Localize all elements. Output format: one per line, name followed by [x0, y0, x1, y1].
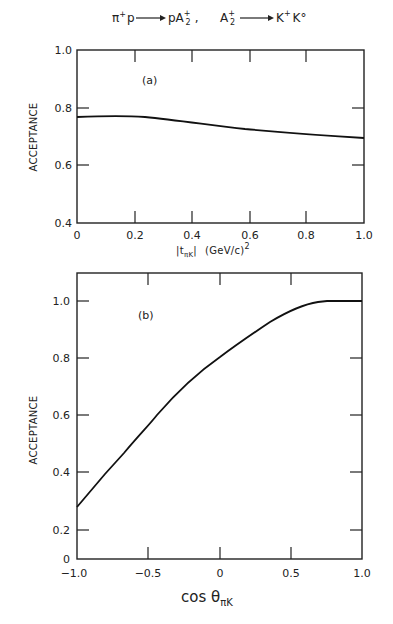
y-tick-label: 0.8 [53, 352, 71, 365]
acceptance-curve-a [77, 116, 364, 138]
title-K0: K° [293, 11, 307, 25]
x-axis-title-units: (GeV/c) [205, 245, 245, 256]
y-tick-label: 0.2 [53, 524, 71, 537]
y-tick-label: 0.6 [53, 409, 71, 422]
x-axis-title-sub: πK [184, 251, 194, 259]
title-p: p [127, 11, 135, 25]
x-tick-label: 0.5 [282, 567, 300, 580]
y-tick-label: 1.0 [53, 295, 71, 308]
y-tick-label: 0.4 [53, 466, 71, 479]
y-tick-label: 0.8 [55, 102, 73, 115]
title-sup: + [228, 9, 235, 18]
x-axis-title-tail: | [193, 245, 197, 257]
panel-a: 0.4 0.6 0.8 1.0 0 0.2 0.4 0.6 0.8 1.0 |t… [28, 44, 373, 259]
figure: π+p pA+2, A+2 K+K° 0.4 [0, 0, 393, 624]
svg-text:K+K°: K+K° [276, 9, 306, 25]
title-sub: 2 [186, 18, 191, 27]
title-sup: + [284, 9, 291, 18]
y-axis-title: ACCEPTANCE [28, 103, 39, 172]
x-axis-title-main: |t [176, 245, 184, 257]
svg-text:pA+2,: pA+2, [168, 9, 198, 27]
x-tick-label: −1.0 [61, 567, 88, 580]
y-tick-label: 1.0 [55, 44, 73, 57]
x-axis-title-sup: 2 [244, 242, 249, 251]
x-axis-title: cos θπK [181, 588, 233, 608]
panel-label: (a) [142, 74, 157, 87]
x-axis-title-main: cos θ [181, 588, 220, 606]
panel-b: 0 0.2 0.4 0.6 0.8 1.0 −1.0 −0.5 0 0.5 1.… [28, 273, 371, 608]
panel-label: (b) [138, 309, 154, 322]
y-tick-label: 0 [63, 553, 70, 566]
x-axis-title: |tπK|(GeV/c)2 [176, 242, 250, 259]
arrowhead-icon [160, 15, 166, 21]
title-pA: pA [168, 11, 185, 25]
y-tick-label: 0.4 [55, 217, 73, 230]
svg-text:A+2: A+2 [220, 9, 235, 27]
title-comma: , [195, 11, 199, 25]
x-tick-label: 1.0 [355, 229, 373, 242]
x-tick-label: 0 [74, 229, 81, 242]
x-tick-label: 1.0 [353, 567, 371, 580]
x-tick-label: −0.5 [135, 567, 162, 580]
title-sup: + [119, 10, 126, 19]
x-tick-label: 0.4 [183, 229, 201, 242]
x-axis-title-sub: πK [220, 597, 233, 608]
x-tick-label: 0.6 [241, 229, 259, 242]
arrowhead-icon [268, 15, 274, 21]
x-tick-label: 0.2 [126, 229, 144, 242]
svg-text:π+p: π+p [112, 10, 135, 25]
plot-frame [77, 273, 362, 559]
x-tick-label: 0 [217, 567, 224, 580]
plot-frame [77, 50, 364, 223]
title-sup: + [184, 9, 191, 18]
acceptance-curve-b [77, 301, 362, 507]
title-sub: 2 [230, 18, 235, 27]
figure-title: π+p pA+2, A+2 K+K° [112, 9, 306, 27]
title-pi: π [112, 11, 119, 25]
y-tick-label: 0.6 [55, 159, 73, 172]
x-tick-label: 0.8 [297, 229, 315, 242]
y-axis-title: ACCEPTANCE [28, 396, 39, 465]
